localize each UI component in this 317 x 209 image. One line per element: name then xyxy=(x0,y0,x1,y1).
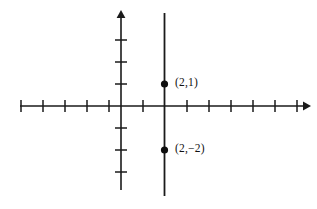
point-2-1-marker xyxy=(161,80,168,87)
coordinate-plane-figure: (2,1) (2,−2) xyxy=(0,0,317,209)
coordinate-plane-svg xyxy=(0,0,317,209)
x-axis-arrow-icon xyxy=(303,102,311,111)
y-axis-arrow-icon xyxy=(117,10,126,18)
point-2-neg2-marker xyxy=(161,146,168,153)
point-2-1-label: (2,1) xyxy=(175,77,198,89)
point-2-neg2-label: (2,−2) xyxy=(175,143,205,155)
